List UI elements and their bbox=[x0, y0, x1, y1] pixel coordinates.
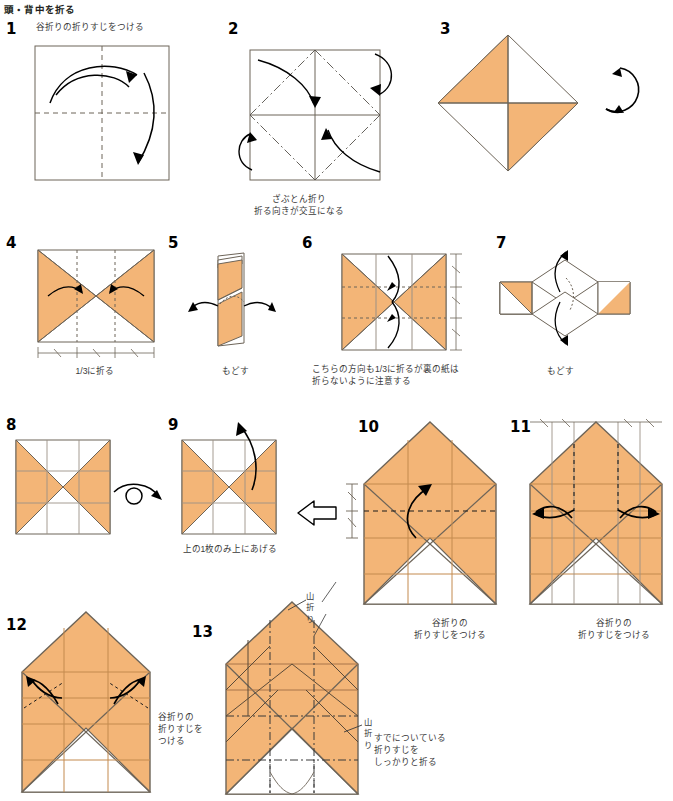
step-figure bbox=[340, 252, 470, 362]
step-number: 1 bbox=[6, 22, 16, 37]
step-number: 9 bbox=[168, 418, 178, 433]
step-figure bbox=[526, 418, 673, 608]
step-figure bbox=[218, 596, 378, 801]
leader-line-top bbox=[288, 598, 312, 612]
step-caption: ざぶとん折り 折る向きが交互になる bbox=[214, 194, 384, 218]
leader-line-mid bbox=[344, 722, 368, 736]
step-number: 6 bbox=[302, 236, 312, 251]
step-caption: 谷折りの折りすじをつける bbox=[36, 22, 246, 34]
step-figure bbox=[360, 418, 510, 608]
step-figure bbox=[230, 42, 400, 202]
step-figure bbox=[430, 30, 580, 180]
step-caption: 1/3に折る bbox=[30, 366, 160, 378]
step-number: 13 bbox=[192, 625, 213, 640]
origami-instruction-sheet: 頭・背中を折る 1 谷折りの折りすじをつける 2 bbox=[0, 0, 673, 801]
step-figure bbox=[18, 608, 163, 798]
step-caption: 谷折りの 折りすじをつける bbox=[390, 618, 510, 642]
next-step-arrow-icon bbox=[296, 498, 342, 528]
step-caption: 上の1枚のみ上にあげる bbox=[160, 544, 300, 556]
step-figure bbox=[490, 244, 640, 354]
step-figure bbox=[14, 438, 114, 538]
page-title: 頭・背中を折る bbox=[4, 2, 75, 16]
step-number: 5 bbox=[168, 236, 178, 251]
step-number: 8 bbox=[6, 418, 16, 433]
step-caption: 谷折りの 折りすじをつける bbox=[554, 618, 673, 642]
step-figure bbox=[180, 248, 290, 358]
turn-over-icon bbox=[110, 480, 170, 516]
step-figure bbox=[36, 248, 160, 368]
step-caption: すでについている 折りすじを しっかりと折る bbox=[374, 733, 494, 769]
step-number: 2 bbox=[228, 22, 238, 37]
lift-arrow bbox=[212, 418, 272, 494]
step-caption: もどす bbox=[180, 366, 290, 378]
rotate-icon bbox=[592, 62, 648, 120]
step-number: 4 bbox=[6, 236, 16, 251]
step-caption: もどす bbox=[500, 366, 620, 378]
step-figure bbox=[34, 45, 174, 185]
